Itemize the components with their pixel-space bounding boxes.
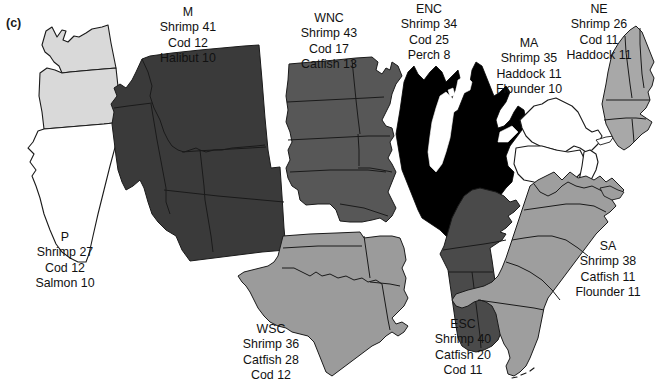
- region-item-ENC-2: Perch 8: [383, 48, 475, 63]
- state-washington: [42, 25, 116, 73]
- region-item-P-0: Shrimp 27: [10, 245, 120, 260]
- region-item-M-2: Halibut 10: [142, 51, 234, 66]
- region-label-ESC: ESC Shrimp 40 Catfish 20 Cod 11: [415, 317, 511, 379]
- region-item-WSC-0: Shrimp 36: [223, 337, 319, 352]
- region-item-P-1: Cod 12: [10, 261, 120, 276]
- region-item-SA-1: Catfish 11: [559, 270, 657, 285]
- region-item-P-2: Salmon 10: [10, 276, 120, 291]
- panel-letter: (c): [6, 17, 21, 30]
- region-label-WSC: WSC Shrimp 36 Catfish 28 Cod 12: [223, 322, 319, 384]
- region-code-WNC: WNC: [283, 11, 375, 26]
- region-item-ESC-2: Cod 11: [415, 363, 511, 378]
- region-label-M: M Shrimp 41 Cod 12 Halibut 10: [142, 5, 234, 67]
- region-item-ENC-1: Cod 25: [383, 33, 475, 48]
- region-shape-M[interactable]: [111, 45, 286, 261]
- region-code-M: M: [142, 5, 234, 20]
- region-label-ENC: ENC Shrimp 34 Cod 25 Perch 8: [383, 2, 475, 64]
- region-item-NE-1: Cod 11: [547, 33, 651, 48]
- region-shape-P[interactable]: [28, 25, 122, 262]
- region-code-SA: SA: [559, 239, 657, 254]
- region-item-NE-0: Shrimp 26: [547, 17, 651, 32]
- figure-panel-c: (c) M Shrimp 41 Cod 12 Halibut 10 P Shri…: [0, 0, 658, 386]
- region-item-SA-2: Flounder 11: [559, 285, 657, 300]
- region-code-ENC: ENC: [383, 2, 475, 17]
- region-code-P: P: [10, 230, 120, 245]
- region-code-ESC: ESC: [415, 317, 511, 332]
- state-oregon: [39, 68, 122, 129]
- region-item-ESC-0: Shrimp 40: [415, 332, 511, 347]
- mountain-bloc: [111, 45, 286, 261]
- region-item-ENC-0: Shrimp 34: [383, 17, 475, 32]
- region-item-MA-1: Haddock 11: [477, 67, 581, 82]
- region-label-P: P Shrimp 27 Cod 12 Salmon 10: [10, 230, 120, 292]
- region-item-ESC-1: Catfish 20: [415, 348, 511, 363]
- region-item-NE-2: Haddock 11: [547, 48, 651, 63]
- region-item-M-1: Cod 12: [142, 36, 234, 51]
- region-label-NE: NE Shrimp 26 Cod 11 Haddock 11: [547, 2, 651, 64]
- region-item-WSC-1: Catfish 28: [223, 353, 319, 368]
- region-shape-WNC[interactable]: [286, 57, 402, 222]
- region-item-WSC-2: Cod 12: [223, 368, 319, 383]
- region-item-SA-0: Shrimp 38: [559, 254, 657, 269]
- region-item-MA-2: Flounder 10: [477, 82, 581, 97]
- region-label-SA: SA Shrimp 38 Catfish 11 Flounder 11: [559, 239, 657, 301]
- region-item-WNC-0: Shrimp 43: [283, 26, 375, 41]
- region-item-WNC-1: Cod 17: [283, 42, 375, 57]
- region-code-NE: NE: [547, 2, 651, 17]
- region-item-M-0: Shrimp 41: [142, 20, 234, 35]
- region-label-WNC: WNC Shrimp 43 Cod 17 Catfish 13: [283, 11, 375, 73]
- region-item-WNC-2: Catfish 13: [283, 57, 375, 72]
- region-code-WSC: WSC: [223, 322, 319, 337]
